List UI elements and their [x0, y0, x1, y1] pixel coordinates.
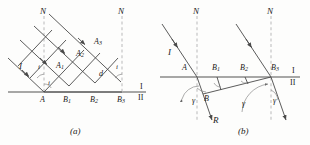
- panel-b-gamma-label-middle: γ: [242, 100, 245, 108]
- panel-a-normal-label-right: N: [118, 7, 124, 16]
- panel-a-wavefront-point-a3: A3: [94, 38, 102, 46]
- panel-b-medium-label-upper: I: [292, 66, 295, 75]
- panel-b-medium-label-lower: II: [290, 78, 295, 87]
- gamma-angle-arcs-b: [182, 84, 278, 112]
- panel-b-refracted-ray-label: R: [213, 116, 219, 125]
- figure-vector-canvas: [0, 0, 310, 145]
- panel-b-interface-point-B1: B1: [212, 64, 220, 72]
- panel-a-caption: (a): [70, 126, 81, 136]
- panel-a-interface-point-B2: B2: [90, 96, 98, 104]
- panel-a-wavefront-point-a1: A1: [56, 62, 64, 70]
- panel-b-interface-point-B2: B2: [240, 64, 248, 72]
- panel-b-normal-label-left: N: [193, 7, 199, 16]
- panel-a-interface-point-A: A: [40, 96, 45, 104]
- panel-b-normal-label-right: N: [267, 7, 273, 16]
- panel-a-angle-label-i-upper: i: [38, 64, 40, 71]
- panel-a-interface-point-B3: B3: [117, 96, 125, 104]
- panel-a-angle-label-i-at-A: i: [48, 80, 50, 87]
- panel-b-interface-point-B3: B3: [271, 64, 279, 72]
- panel-a-angle-label-i-right: i: [116, 64, 118, 71]
- angle-arc-a-upper: [37, 74, 44, 78]
- panel-a-spacing-label-d: d: [99, 70, 103, 78]
- panel-b-group: [160, 16, 300, 122]
- panel-b-gamma-label-right: γ: [273, 97, 276, 105]
- panel-a-wavefront-point-a2: A2: [76, 50, 84, 58]
- panel-a-medium-label-lower: II: [138, 93, 143, 102]
- panel-b-wavelet-point-B: B: [204, 95, 209, 103]
- panel-b-caption: (b): [238, 126, 249, 136]
- panel-a-incident-ray-label: I: [19, 62, 22, 71]
- optics-refraction-figure: N N I i i i A1 A2 A3 d A B1 B2 B3 I II (…: [0, 0, 310, 145]
- panel-b-interface-point-A: A: [182, 64, 187, 72]
- incident-ray-arrowheads-b: [172, 39, 252, 48]
- panel-a-medium-label-upper: I: [140, 82, 143, 91]
- panel-b-incident-ray-label: I: [168, 48, 171, 57]
- huygens-wavelet-arcs-b: [197, 81, 247, 92]
- panel-a-interface-point-B1: B1: [63, 96, 71, 104]
- panel-b-gamma-label-left: γ: [192, 97, 195, 105]
- panel-a-normal-label-left: N: [40, 7, 46, 16]
- wavefronts-a: [18, 30, 118, 92]
